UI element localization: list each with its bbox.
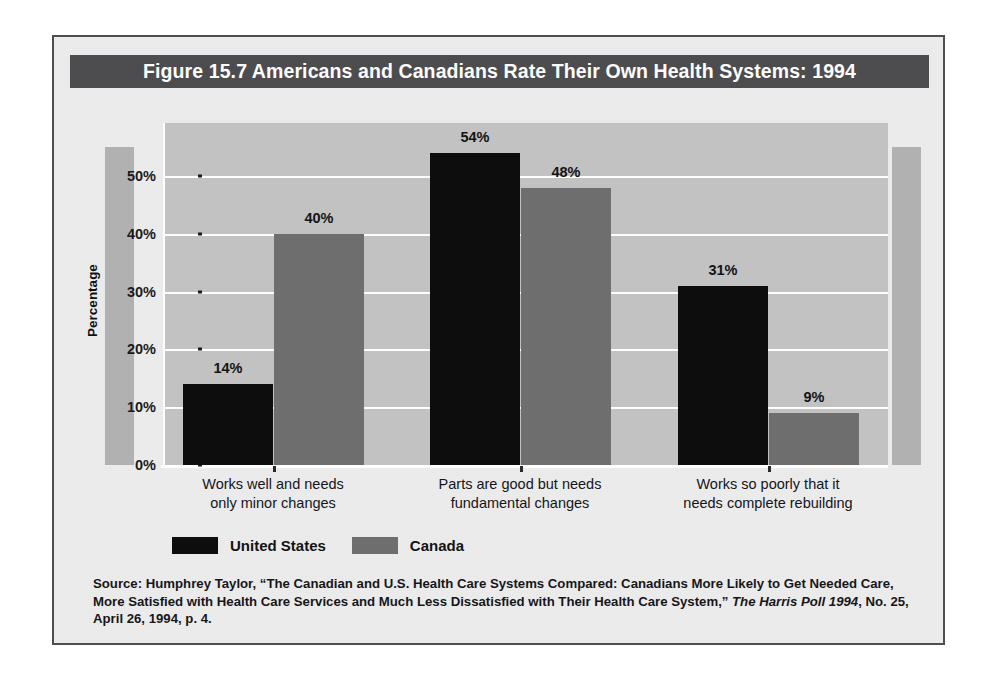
bars-layer bbox=[163, 123, 886, 465]
bar-united-states-group-3[interactable] bbox=[678, 286, 768, 465]
x-axis-category-label-1-line-1: Works well and needs bbox=[153, 475, 393, 494]
bar-canada-group-1[interactable] bbox=[274, 234, 364, 465]
y-axis-tick-label-20: 20% bbox=[102, 341, 156, 357]
y-axis-tick-label-30: 30% bbox=[102, 284, 156, 300]
bar-value-label-united-states-group-1: 14% bbox=[213, 360, 242, 376]
legend-label-canada: Canada bbox=[410, 537, 464, 554]
x-axis-baseline bbox=[161, 465, 888, 468]
y-axis-tick-label-40: 40% bbox=[102, 226, 156, 242]
bar-canada-group-3[interactable] bbox=[769, 413, 859, 465]
x-axis-category-label-3-line-2: needs complete rebuilding bbox=[648, 494, 888, 513]
x-axis-tick-group-3 bbox=[768, 466, 771, 472]
right-gutter-band bbox=[892, 147, 921, 465]
x-axis-tick-group-2 bbox=[520, 466, 523, 472]
x-axis-tick-group-1 bbox=[273, 466, 276, 472]
bar-value-label-united-states-group-3: 31% bbox=[708, 262, 737, 278]
y-axis-tick-label-0: 0% bbox=[102, 457, 156, 473]
x-axis-category-label-3: Works so poorly that itneeds complete re… bbox=[648, 475, 888, 513]
legend-item-united-states[interactable]: United States bbox=[172, 537, 326, 554]
x-axis-category-label-3-line-1: Works so poorly that it bbox=[648, 475, 888, 494]
x-axis-category-label-2-line-1: Parts are good but needs bbox=[400, 475, 640, 494]
bar-united-states-group-1[interactable] bbox=[183, 384, 273, 465]
y-axis-tick-label-50: 50% bbox=[102, 168, 156, 184]
legend-item-canada[interactable]: Canada bbox=[352, 537, 464, 554]
figure-frame: Figure 15.7 Americans and Canadians Rate… bbox=[52, 35, 945, 645]
x-axis-category-label-2: Parts are good but needsfundamental chan… bbox=[400, 475, 640, 513]
bar-value-label-canada-group-2: 48% bbox=[551, 164, 580, 180]
x-axis-category-label-1-line-2: only minor changes bbox=[153, 494, 393, 513]
source-note: Source: Humphrey Taylor, “The Canadian a… bbox=[93, 575, 911, 628]
y-axis-labels: 0%10%20%30%40%50% bbox=[94, 37, 156, 647]
y-axis-tick-label-10: 10% bbox=[102, 399, 156, 415]
x-axis-category-label-1: Works well and needsonly minor changes bbox=[153, 475, 393, 513]
bar-value-label-canada-group-3: 9% bbox=[804, 389, 825, 405]
bar-canada-group-2[interactable] bbox=[521, 188, 611, 465]
bar-value-label-canada-group-1: 40% bbox=[304, 210, 333, 226]
bar-value-label-united-states-group-2: 54% bbox=[460, 129, 489, 145]
legend: United States Canada bbox=[172, 537, 464, 554]
source-text-italic: The Harris Poll 1994 bbox=[732, 594, 858, 609]
legend-swatch-icon-canada bbox=[352, 537, 398, 554]
legend-label-united-states: United States bbox=[230, 537, 326, 554]
legend-swatch-icon-united-states bbox=[172, 537, 218, 554]
x-axis-category-label-2-line-2: fundamental changes bbox=[400, 494, 640, 513]
x-axis-category-labels: Works well and needsonly minor changesPa… bbox=[163, 475, 886, 527]
bar-united-states-group-2[interactable] bbox=[430, 153, 520, 465]
chart-canvas: Percentage 0%10%20%30%40%50% Works well … bbox=[54, 37, 947, 647]
